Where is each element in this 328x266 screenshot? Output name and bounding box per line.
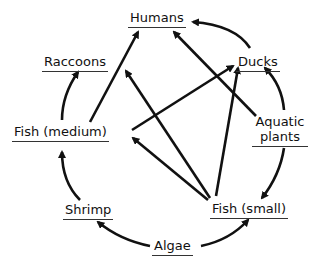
node-algae: Algae [152, 239, 193, 256]
node-raccoons: Raccoons [42, 55, 108, 72]
node-label: Humans [128, 11, 186, 28]
node-label: Algae [152, 239, 193, 256]
node-label-line-2: plants [252, 129, 308, 147]
node-label-line-1: Aquatic [252, 114, 308, 129]
node-label: Ducks [236, 55, 280, 72]
arrow-shrimp-to-fish-medium [62, 152, 80, 200]
node-label: Fish (medium) [12, 125, 109, 142]
node-fish-medium: Fish (medium) [12, 125, 109, 142]
node-label: Shrimp [63, 203, 113, 220]
arrow-ducks-to-humans [193, 22, 250, 48]
arrow-fish-medium-to-raccoons [62, 72, 78, 120]
node-ducks: Ducks [236, 55, 280, 72]
node-aquatic-plants: Aquatic plants [252, 114, 308, 147]
arrow-algae-to-shrimp [98, 222, 150, 246]
node-shrimp: Shrimp [63, 203, 113, 220]
node-label: Raccoons [42, 55, 108, 72]
arrow-fish-small-to-fish-medium [133, 138, 208, 200]
node-label: Fish (small) [210, 202, 288, 219]
node-fish-small: Fish (small) [210, 202, 288, 219]
food-web-diagram: Humans Raccoons Ducks Fish (medium) Aqua… [0, 0, 328, 266]
arrow-aquatic-plants-to-ducks [265, 68, 284, 110]
arrow-algae-to-fish-small [201, 220, 248, 246]
arrow-aquatic-plants-to-humans [174, 32, 256, 116]
node-humans: Humans [128, 11, 186, 28]
arrow-aquatic-plants-to-fish-small [262, 148, 284, 198]
